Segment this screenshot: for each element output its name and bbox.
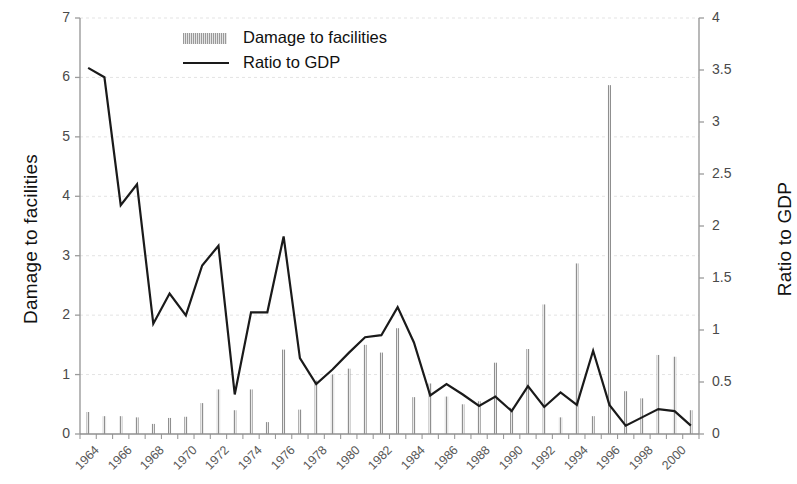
bar <box>184 417 187 434</box>
right-axis-tick-label: 4 <box>712 9 752 25</box>
bar <box>657 355 660 434</box>
left-axis-tick-label: 5 <box>34 128 70 144</box>
right-axis-tick-label: 2 <box>712 217 752 233</box>
x-axis-ticks <box>80 434 699 439</box>
bar <box>233 410 236 434</box>
bar <box>87 412 90 434</box>
left-axis-ticks <box>75 18 80 434</box>
ratio-to-gdp-line <box>88 68 691 426</box>
bar <box>673 357 676 434</box>
line-series-ratio-to-gdp <box>88 68 691 426</box>
right-axis-tick-label: 3 <box>712 113 752 129</box>
bar <box>445 397 448 434</box>
left-axis-tick-label: 4 <box>34 187 70 203</box>
bar <box>689 410 692 434</box>
bar <box>298 410 301 434</box>
legend-label-ratio-to-gdp: Ratio to GDP <box>243 53 340 72</box>
bar <box>331 375 334 434</box>
bar <box>592 416 595 434</box>
plot-area <box>0 0 797 484</box>
right-axis-ticks <box>699 18 704 434</box>
bar <box>396 328 399 434</box>
left-axis-tick-label: 3 <box>34 247 70 263</box>
right-axis-tick-label: 0 <box>712 425 752 441</box>
legend-swatch-damage-to-facilities <box>183 33 227 44</box>
bar <box>380 353 383 434</box>
bar <box>543 304 546 434</box>
bar <box>624 391 627 434</box>
legend-label-damage-to-facilities: Damage to facilities <box>243 28 387 47</box>
bar <box>119 416 122 434</box>
bar <box>559 417 562 434</box>
bar <box>461 404 464 434</box>
bar <box>363 345 366 434</box>
left-axis-tick-label: 1 <box>34 366 70 382</box>
bar <box>201 403 204 434</box>
right-axis-tick-label: 0.5 <box>712 373 752 389</box>
right-axis-tick-label: 1 <box>712 321 752 337</box>
right-axis-tick-label: 1.5 <box>712 269 752 285</box>
bar <box>135 417 138 434</box>
left-axis-tick-label: 0 <box>34 425 70 441</box>
bar <box>168 418 171 434</box>
bar <box>412 397 415 434</box>
bar <box>282 350 285 434</box>
damage-to-facilities-chart: Damage to facilities Ratio to GDP 012345… <box>0 0 797 484</box>
bar <box>249 389 252 434</box>
bar <box>217 389 220 434</box>
bar <box>575 263 578 434</box>
right-axis-tick-label: 2.5 <box>712 165 752 181</box>
left-axis-tick-label: 2 <box>34 306 70 322</box>
bar <box>152 424 155 434</box>
left-axis-tick-label: 6 <box>34 68 70 84</box>
bar <box>608 85 611 434</box>
bar <box>315 381 318 434</box>
bar <box>103 416 106 434</box>
legend-swatch-ratio-to-gdp <box>183 62 229 64</box>
bar <box>347 369 350 434</box>
bar <box>526 349 529 434</box>
bar <box>266 422 269 434</box>
left-axis-tick-label: 7 <box>34 9 70 25</box>
right-axis-tick-label: 3.5 <box>712 61 752 77</box>
